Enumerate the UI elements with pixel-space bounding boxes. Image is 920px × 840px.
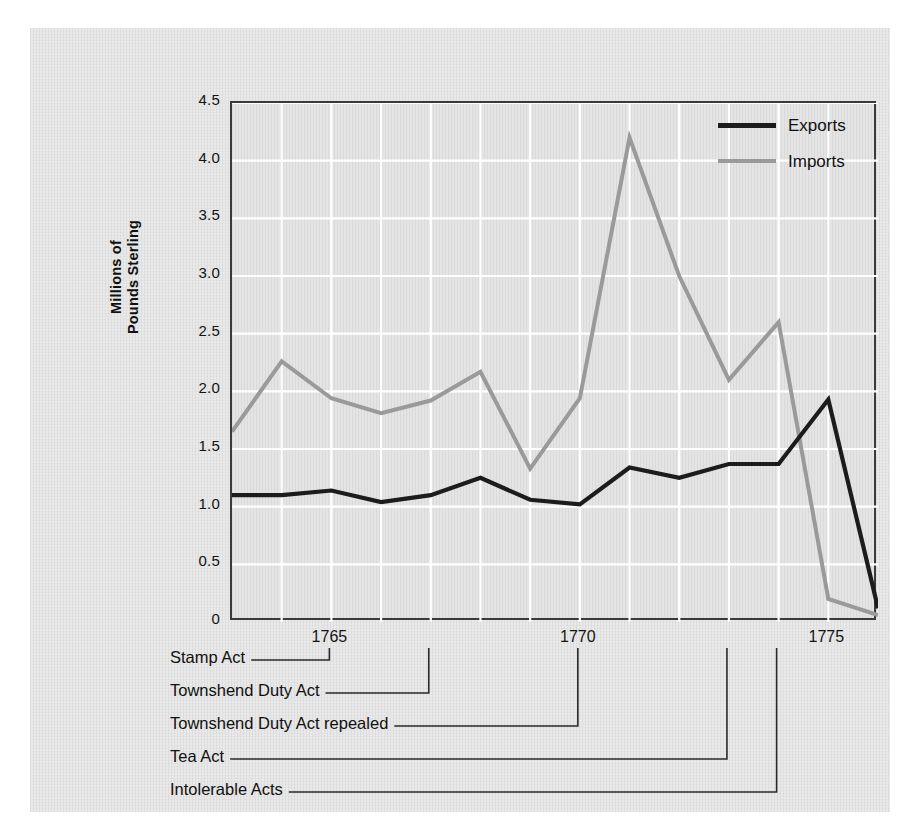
annotation-label: Townshend Duty Act repealed (170, 714, 388, 733)
chart-figure: Millions of Pounds Sterling 00.51.01.52.… (0, 0, 920, 840)
annotation-label: Townshend Duty Act (170, 681, 320, 700)
annotation-label: Stamp Act (170, 648, 245, 667)
annotation-label: Intolerable Acts (170, 780, 283, 799)
annotation-label: Tea Act (170, 747, 224, 766)
chart-panel: Millions of Pounds Sterling 00.51.01.52.… (30, 28, 890, 812)
annotation-leader-lines (30, 28, 890, 812)
